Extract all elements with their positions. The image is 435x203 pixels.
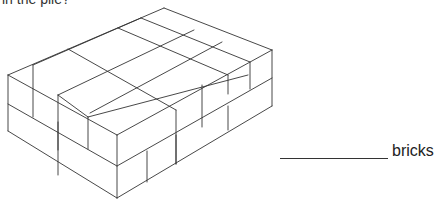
brick-edge	[8, 131, 117, 198]
bricks-label: bricks	[392, 143, 434, 159]
answer-blank[interactable]	[280, 144, 388, 159]
answer-row: bricks	[280, 143, 434, 159]
brick-edge	[58, 95, 88, 117]
brick-pile-diagram	[0, 0, 300, 203]
brick-edge	[8, 75, 117, 135]
brick-edge	[58, 30, 194, 95]
brick-edge	[68, 49, 176, 110]
brick-edge	[117, 106, 272, 198]
brick-edge	[33, 18, 141, 65]
brick-edge	[88, 75, 248, 117]
brick-edge	[141, 18, 250, 62]
